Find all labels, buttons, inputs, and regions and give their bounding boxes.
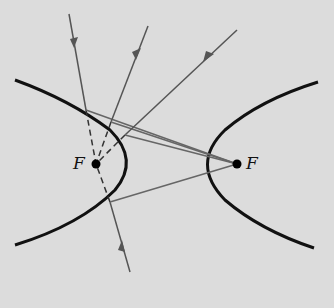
- left-focus-point: [92, 160, 101, 169]
- ray-4: [96, 164, 237, 272]
- right-focus-label: F: [246, 153, 258, 173]
- ray-3: [96, 30, 237, 164]
- right-focus-point: [233, 160, 242, 169]
- right-hyperbola-branch: [208, 82, 319, 248]
- hyperbola-diagram: F F: [0, 0, 334, 308]
- diagram-svg: [0, 0, 334, 308]
- arrow-head-icon: [118, 240, 125, 252]
- left-focus-label: F: [73, 153, 85, 173]
- left-hyperbola-branch: [15, 80, 126, 245]
- arrow-head-icon: [132, 48, 141, 60]
- arrow-head-icon: [70, 37, 78, 48]
